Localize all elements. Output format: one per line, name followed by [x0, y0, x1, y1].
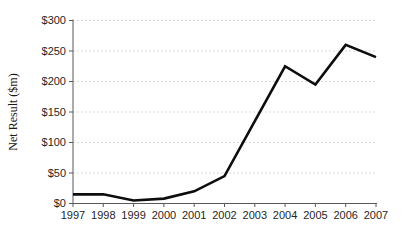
- gridlines-group: [73, 21, 376, 174]
- x-tick-label: 1997: [61, 209, 85, 221]
- chart-canvas: $0$50$100$150$200$250$300199719981999200…: [0, 0, 408, 234]
- net-result-chart: $0$50$100$150$200$250$300199719981999200…: [0, 0, 408, 234]
- x-tick-label: 2005: [303, 209, 327, 221]
- y-tick-label: $200: [42, 75, 66, 87]
- x-tick-label: 2002: [212, 209, 236, 221]
- x-tick-label: 2000: [152, 209, 176, 221]
- y-tick-label: $50: [48, 167, 66, 179]
- y-tick-label: $300: [42, 14, 66, 26]
- x-tick-label: 1999: [121, 209, 145, 221]
- x-tick-label: 2006: [333, 209, 357, 221]
- tick-marks-group: [69, 21, 376, 208]
- y-tick-label: $0: [54, 197, 66, 209]
- y-tick-label: $100: [42, 136, 66, 148]
- x-tick-label: 2004: [273, 209, 297, 221]
- y-tick-label: $250: [42, 45, 66, 57]
- x-tick-label: 2001: [182, 209, 206, 221]
- y-axis-title: Net Result ($m): [6, 73, 21, 150]
- tick-labels-group: $0$50$100$150$200$250$300199719981999200…: [42, 14, 389, 221]
- y-tick-label: $150: [42, 106, 66, 118]
- series-group: [73, 45, 376, 201]
- x-tick-label: 2003: [243, 209, 267, 221]
- net-result-line: [73, 45, 376, 201]
- x-tick-label: 2007: [364, 209, 388, 221]
- x-tick-label: 1998: [91, 209, 115, 221]
